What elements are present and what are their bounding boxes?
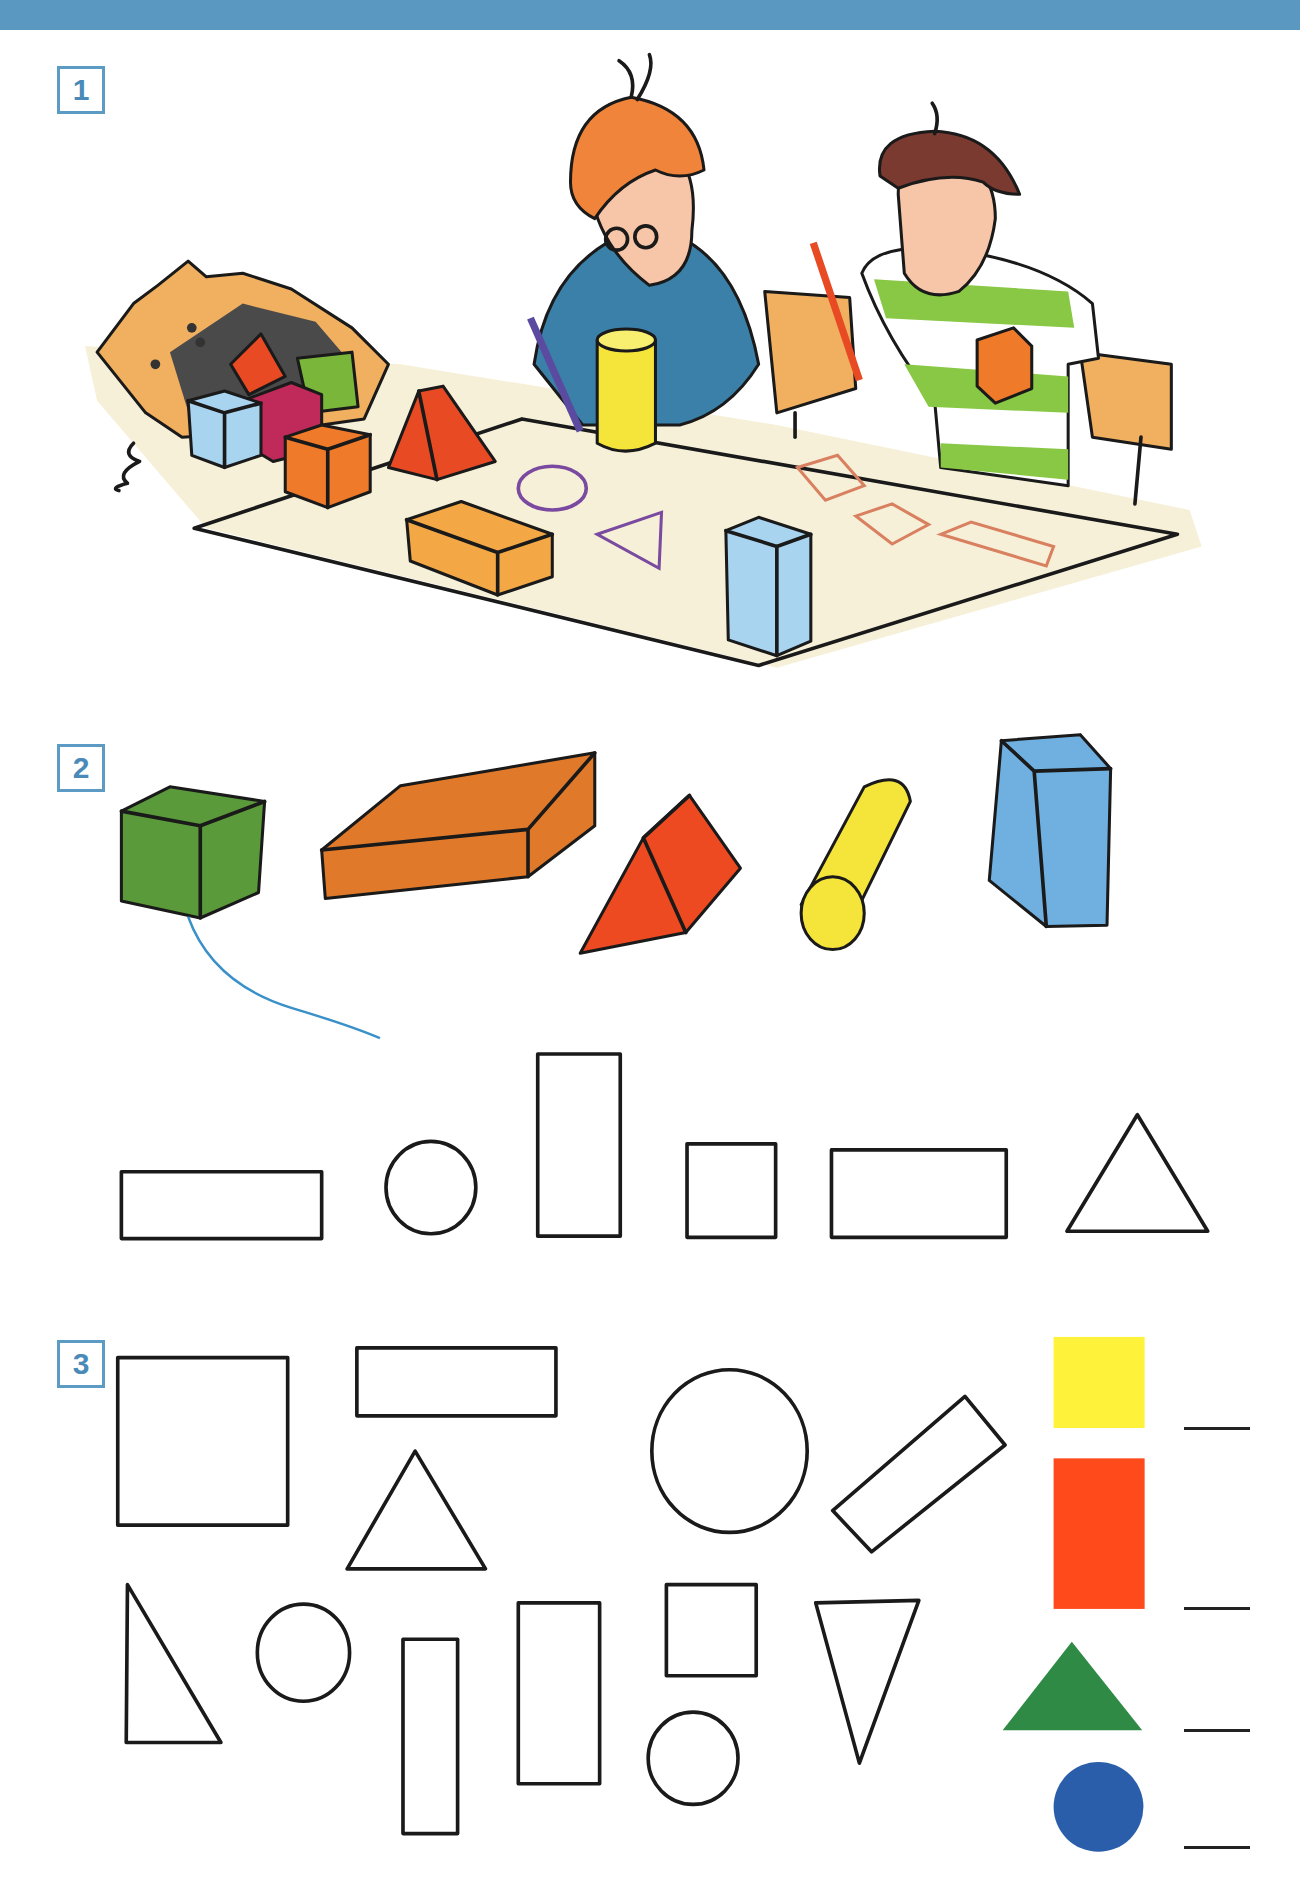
orange-flat-cuboid [322, 753, 595, 899]
worksheet-page: 1 2 3 [0, 0, 1300, 1904]
answer-line-squares[interactable] [1184, 1427, 1250, 1430]
answer-line-circles[interactable] [1184, 1846, 1250, 1849]
legend-shapes [1003, 1337, 1145, 1852]
example-match-line [188, 917, 380, 1038]
legend-square-yellow [1054, 1337, 1145, 1428]
answer-line-rectangles[interactable] [1184, 1607, 1250, 1610]
solids-row [121, 735, 1110, 1039]
legend-triangle-green [1003, 1642, 1143, 1731]
yellow-cylinder [801, 780, 910, 950]
legend-rectangle-red [1054, 1458, 1145, 1609]
blue-tall-cuboid [989, 735, 1110, 927]
face-outlines-row [121, 1054, 1207, 1239]
legend-circle-blue [1054, 1762, 1144, 1852]
worksheet-drawing [0, 0, 1300, 1904]
red-triangular-prism [580, 795, 740, 953]
answer-line-triangles[interactable] [1184, 1729, 1250, 1732]
green-cube [121, 787, 264, 918]
count-shapes-area [118, 1348, 1005, 1834]
classroom-illustration [85, 55, 1202, 668]
